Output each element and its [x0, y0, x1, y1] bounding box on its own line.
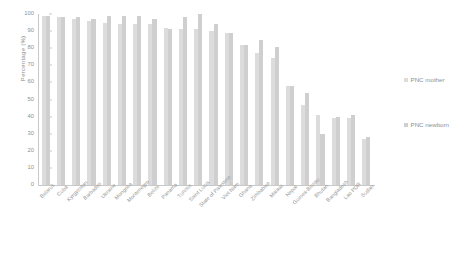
- bar-group: [114, 14, 129, 185]
- chart-legend: PNC motherPNC newborn: [404, 76, 474, 166]
- y-axis-tick-label: 100: [14, 11, 34, 17]
- bar-newborn: [91, 19, 95, 185]
- bar-group: [343, 14, 358, 185]
- x-axis-label-slot: Belarus: [38, 187, 53, 247]
- y-axis-tick-label: 80: [14, 45, 34, 51]
- x-axis-label-slot: Zimbabwe: [252, 187, 267, 247]
- bar-newborn: [183, 17, 187, 185]
- bar-newborn: [61, 17, 65, 185]
- bar-newborn: [76, 17, 80, 185]
- bar-group: [175, 14, 190, 185]
- bar-newborn: [336, 117, 340, 185]
- bar-newborn: [351, 115, 355, 185]
- bar-newborn: [275, 47, 279, 186]
- bar-chart: Percentage (%) 0102030405060708090100 Be…: [0, 0, 475, 256]
- x-axis-label-slot: Viet Nam: [221, 187, 236, 247]
- bar-group: [313, 14, 328, 185]
- bar-group: [145, 14, 160, 185]
- bar-newborn: [152, 19, 156, 185]
- bar-newborn: [366, 137, 370, 185]
- bar-group: [160, 14, 175, 185]
- bar-group: [221, 14, 236, 185]
- y-axis-tick-label: 70: [14, 62, 34, 68]
- bar-group: [191, 14, 206, 185]
- bar-group: [359, 14, 374, 185]
- y-axis-tick-label: 50: [14, 97, 34, 103]
- plot-area: [38, 14, 374, 185]
- bar-group: [84, 14, 99, 185]
- y-axis-tick-label: 90: [14, 28, 34, 34]
- x-axis-labels: BelarusCubaKyrgyzstanBarbadosUkraineMong…: [38, 187, 374, 247]
- bar-group: [53, 14, 68, 185]
- bar-group: [69, 14, 84, 185]
- x-axis-label-slot: Montenegro: [130, 187, 145, 247]
- y-axis-tick-label: 30: [14, 131, 34, 137]
- x-axis-label-slot: Belize: [145, 187, 160, 247]
- x-axis-label-slot: Barbados: [84, 187, 99, 247]
- bar-newborn: [137, 16, 141, 185]
- y-axis-tick-label: 10: [14, 165, 34, 171]
- bar-newborn: [290, 86, 294, 185]
- bar-newborn: [229, 33, 233, 185]
- bar-group: [252, 14, 267, 185]
- legend-entry[interactable]: PNC newborn: [404, 121, 474, 128]
- bar-newborn: [305, 93, 309, 185]
- bar-newborn: [259, 40, 263, 185]
- bar-group: [38, 14, 53, 185]
- x-axis-label-slot: Panama: [160, 187, 175, 247]
- bar-group: [328, 14, 343, 185]
- bar-group: [282, 14, 297, 185]
- legend-entry[interactable]: PNC mother: [404, 76, 474, 83]
- bar-group: [236, 14, 251, 185]
- legend-label: PNC newborn: [411, 121, 450, 128]
- bar-newborn: [198, 14, 202, 185]
- bar-newborn: [168, 29, 172, 185]
- y-axis-tick-label: 60: [14, 79, 34, 85]
- y-axis-tick-label: 0: [14, 182, 34, 188]
- bar-group: [130, 14, 145, 185]
- bar-group: [206, 14, 221, 185]
- bar-newborn: [107, 16, 111, 185]
- bar-newborn: [320, 134, 324, 185]
- x-axis-label-slot: Lao PDR: [343, 187, 358, 247]
- bar-group: [298, 14, 313, 185]
- x-axis-label-slot: Guinea-Bissau: [298, 187, 313, 247]
- legend-swatch-icon: [404, 78, 408, 82]
- y-axis-tick-label: 40: [14, 114, 34, 120]
- x-axis-label-slot: Malawi: [267, 187, 282, 247]
- legend-swatch-icon: [404, 123, 408, 127]
- bar-group: [267, 14, 282, 185]
- bar-group: [99, 14, 114, 185]
- y-axis-tick-label: 20: [14, 148, 34, 154]
- bar-newborn: [244, 45, 248, 185]
- bar-newborn: [122, 16, 126, 185]
- bar-newborn: [46, 16, 50, 185]
- x-axis-label-slot: Sudan: [359, 187, 374, 247]
- bar-newborn: [214, 24, 218, 185]
- legend-label: PNC mother: [411, 76, 445, 83]
- y-axis-ticks: 0102030405060708090100: [14, 14, 34, 185]
